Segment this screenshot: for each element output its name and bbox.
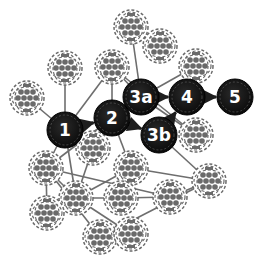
gray-node	[30, 196, 64, 230]
gray-node	[29, 151, 63, 185]
diagram-canvas: 123a3b45	[0, 0, 261, 270]
node-label: 3b	[147, 125, 171, 145]
path-node-3b: 3b	[141, 117, 177, 153]
gray-node	[143, 29, 177, 63]
path-node-1: 1	[47, 112, 83, 148]
gray-node	[95, 50, 129, 84]
network-diagram: 123a3b45	[0, 0, 261, 270]
gray-node	[114, 217, 148, 251]
path-node-4: 4	[169, 79, 205, 115]
path-node-5: 5	[217, 79, 253, 115]
path-nodes: 123a3b45	[47, 79, 253, 153]
gray-node	[153, 180, 187, 214]
gray-node	[48, 51, 82, 85]
node-label: 3a	[129, 87, 152, 107]
gray-node	[114, 10, 148, 44]
node-label: 1	[59, 120, 71, 140]
node-label: 4	[181, 87, 193, 107]
gray-node	[83, 220, 117, 254]
gray-node	[179, 118, 213, 152]
node-label: 2	[106, 108, 118, 128]
gray-node	[10, 81, 44, 115]
path-node-3a: 3a	[123, 79, 159, 115]
gray-node	[179, 49, 213, 83]
path-edge-arrow	[82, 123, 93, 126]
gray-node	[114, 151, 148, 185]
gray-node	[192, 164, 226, 198]
path-edge-arrow	[129, 124, 141, 128]
gray-node	[59, 181, 93, 215]
gray-node	[104, 181, 138, 215]
node-label: 5	[229, 87, 241, 107]
